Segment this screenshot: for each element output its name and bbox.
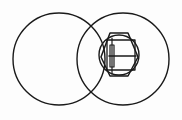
line-drawing xyxy=(0,0,182,120)
left-circle xyxy=(13,13,105,105)
drawing-canvas: Overlapping circles with hexagonal slott… xyxy=(0,0,182,120)
right-circle xyxy=(77,13,169,105)
